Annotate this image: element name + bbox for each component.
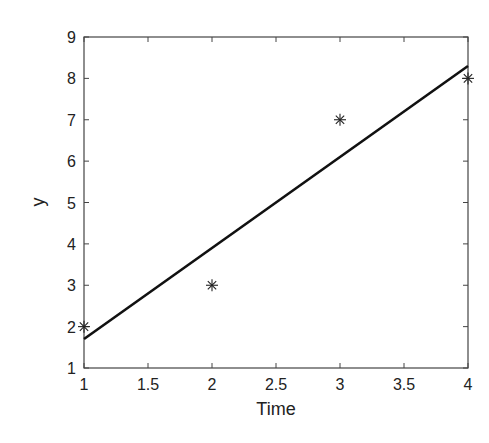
x-tick-label: 2 [208, 376, 217, 393]
y-tick-label: 6 [67, 153, 76, 170]
x-tick-label: 4 [464, 376, 473, 393]
y-tick-label: 7 [67, 112, 76, 129]
x-tick-label: 2.5 [265, 376, 287, 393]
x-axis-label: Time [256, 399, 295, 419]
asterisk-marker [334, 114, 346, 126]
chart: 11.522.533.54123456789 Time y [0, 0, 489, 443]
x-tick-label: 3.5 [393, 376, 415, 393]
fit-line [84, 66, 468, 339]
plot-area: 11.522.533.54123456789 [67, 29, 474, 393]
y-tick-label: 4 [67, 236, 76, 253]
asterisk-marker [78, 321, 90, 333]
y-tick-label: 5 [67, 195, 76, 212]
asterisk-marker [462, 72, 474, 84]
y-axis-label: y [28, 198, 48, 207]
y-tick-label: 3 [67, 277, 76, 294]
axis-tick-labels: 11.522.533.54123456789 [67, 29, 472, 393]
y-tick-label: 9 [67, 29, 76, 46]
asterisk-marker [206, 279, 218, 291]
x-tick-label: 1 [80, 376, 89, 393]
x-tick-label: 1.5 [137, 376, 159, 393]
series-layer [78, 66, 474, 339]
y-tick-label: 1 [67, 360, 76, 377]
x-tick-label: 3 [336, 376, 345, 393]
y-tick-label: 8 [67, 70, 76, 87]
y-tick-label: 2 [67, 319, 76, 336]
